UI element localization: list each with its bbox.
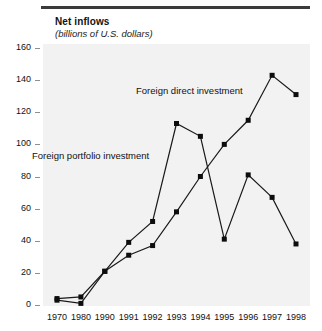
data-point-marker [78,294,83,299]
data-point-marker [126,240,131,245]
data-point-marker [126,253,131,258]
data-point-marker [246,172,251,177]
data-point-marker [294,92,299,97]
series-label-foreign-portfolio-investment: Foreign portfolio investment [32,150,149,161]
data-point-marker [198,134,203,139]
chart-plot [0,0,322,331]
data-point-marker [150,243,155,248]
data-point-marker [270,73,275,78]
data-point-marker [222,237,227,242]
data-point-marker [270,195,275,200]
data-point-marker [55,298,60,303]
data-point-marker [246,118,251,123]
chart-figure: Net inflows (billions of U.S. dollars) 1… [0,0,322,331]
data-point-marker [174,121,179,126]
data-point-marker [78,301,83,306]
data-point-marker [150,219,155,224]
data-point-marker [198,174,203,179]
series-label-foreign-direct-investment: Foreign direct investment [136,85,243,96]
data-point-marker [174,209,179,214]
data-point-marker [294,241,299,246]
data-point-marker [102,269,107,274]
data-point-marker [222,142,227,147]
